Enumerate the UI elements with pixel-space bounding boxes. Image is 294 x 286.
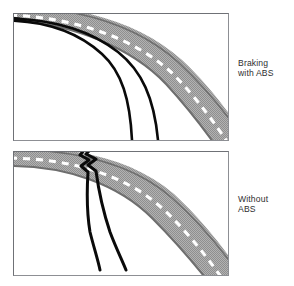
road-diagram-abs xyxy=(14,14,228,140)
caption-braking-with-abs: Braking with ABS xyxy=(238,58,292,79)
caption-without-abs: Without ABS xyxy=(238,194,292,215)
panel-braking-with-abs xyxy=(13,13,229,141)
panel-without-abs xyxy=(13,151,229,276)
abs-comparison-figure: Braking with ABS xyxy=(0,0,294,286)
road-surface-abs xyxy=(14,14,228,140)
road-diagram-no-abs xyxy=(14,152,228,275)
